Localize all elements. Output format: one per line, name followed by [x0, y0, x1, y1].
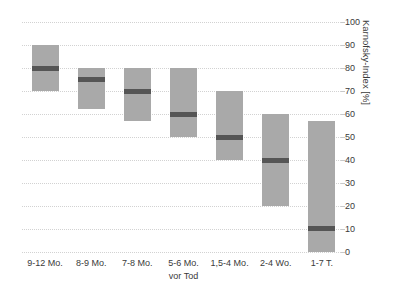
x-tick-label-2: 8-9 Mo. [68, 258, 114, 269]
range-bar [262, 114, 289, 206]
y-tick-mark-50 [341, 137, 345, 138]
x-tick-label-5: 1,5-4 Mo. [207, 258, 253, 269]
plot-area [22, 22, 345, 252]
median-line [124, 89, 151, 94]
y-tick-label-10: 10 [345, 225, 371, 234]
median-line [170, 112, 197, 117]
range-bar [308, 121, 335, 252]
y-tick-mark-40 [341, 160, 345, 161]
bar-slot [253, 22, 299, 252]
range-bar [32, 45, 59, 91]
x-axis-title: vor Tod [160, 271, 206, 282]
x-axis: 9-12 Mo.8-9 Mo.7-8 Mo.5-6 Mo.1,5-4 Mo.2-… [22, 258, 345, 298]
bar-slot [299, 22, 345, 252]
median-line [216, 135, 243, 140]
bar-slot [68, 22, 114, 252]
range-bar [78, 68, 105, 109]
y-tick-mark-60 [341, 114, 345, 115]
range-bar [216, 91, 243, 160]
y-tick-mark-70 [341, 91, 345, 92]
range-bar [170, 68, 197, 137]
x-tick-label-1: 9-12 Mo. [22, 258, 68, 269]
y-tick-mark-20 [341, 206, 345, 207]
median-line [78, 77, 105, 82]
x-tick-label-6: 2-4 Wo. [253, 258, 299, 269]
y-tick-label-20: 20 [345, 202, 371, 211]
gridline-0 [22, 252, 345, 253]
y-tick-mark-100 [341, 22, 345, 23]
bar-slot [207, 22, 253, 252]
y-tick-label-0: 0 [345, 248, 371, 257]
median-line [262, 158, 289, 163]
y-tick-mark-30 [341, 183, 345, 184]
y-tick-mark-10 [341, 229, 345, 230]
x-tick-label-4: 5-6 Mo. [160, 258, 206, 269]
y-tick-mark-80 [341, 68, 345, 69]
y-tick-mark-0 [341, 252, 345, 253]
x-tick-label-3: 7-8 Mo. [114, 258, 160, 269]
chart-figure: 0102030405060708090100 Karnofsky-Index [… [0, 0, 408, 300]
median-line [32, 66, 59, 71]
y-tick-mark-90 [341, 45, 345, 46]
y-axis-title: Karnofsky-Index [%] [361, 20, 372, 180]
clipped-title-remnant [112, 0, 202, 6]
range-bar [124, 68, 151, 121]
bar-slot [22, 22, 68, 252]
median-line [308, 226, 335, 231]
bar-slot [114, 22, 160, 252]
x-tick-label-7: 1-7 T. [299, 258, 345, 269]
y-tick-label-30: 30 [345, 179, 371, 188]
bar-slot [160, 22, 206, 252]
